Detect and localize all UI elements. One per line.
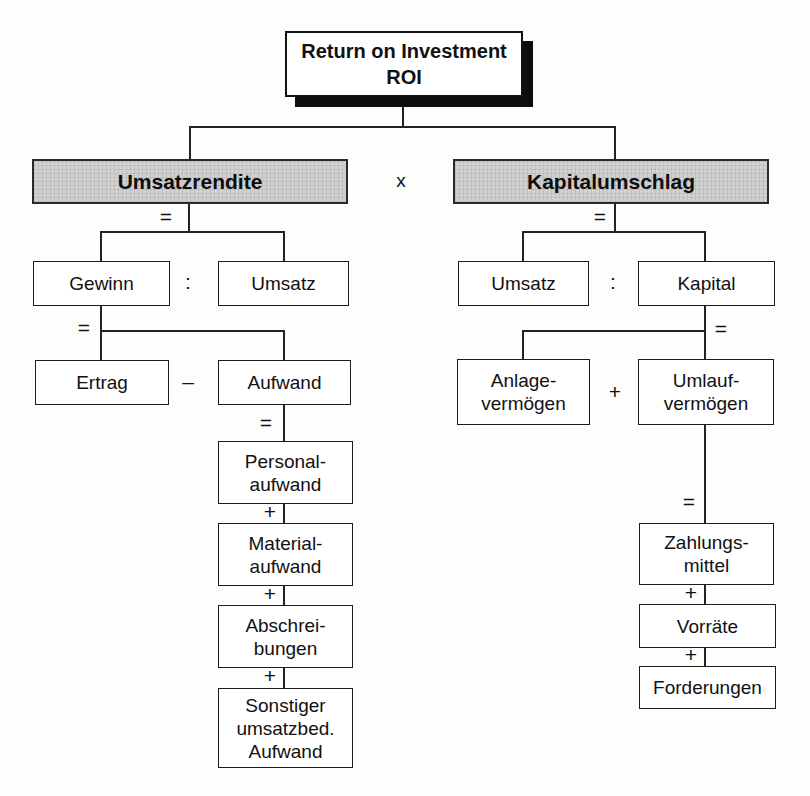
equals-right-row1: =	[708, 318, 734, 340]
connector-chain-left-1	[283, 504, 285, 524]
colon-operator-right: :	[600, 271, 626, 293]
node-ertrag: Ertrag	[35, 360, 169, 405]
equals-right-row2: =	[676, 491, 702, 513]
node-vorraete: Vorräte	[639, 604, 776, 648]
node-forderungen: Forderungen	[639, 666, 776, 709]
connector-root-to-right-header	[614, 126, 616, 159]
connector-left-row2-crossbar	[101, 330, 285, 332]
plus-operator-right-2: +	[678, 644, 704, 666]
minus-operator: –	[175, 371, 201, 393]
connector-chain-left-3	[283, 668, 285, 689]
connector-root-to-left-header	[189, 126, 191, 159]
connector-left-row1-crossbar	[100, 231, 285, 233]
node-personalaufwand: Personal- aufwand	[218, 441, 353, 504]
equals-left-row2: =	[253, 412, 279, 434]
branch-header-umsatzrendite: Umsatzrendite	[32, 159, 348, 204]
connector-left-header-down	[188, 204, 190, 233]
plus-operator-left-3: +	[257, 665, 283, 687]
connector-chain-right-1	[704, 585, 706, 604]
node-umlaufvermoegen: Umlauf- vermögen	[638, 359, 774, 425]
node-abschreibungen: Abschrei- bungen	[218, 605, 353, 668]
node-umsatz-left: Umsatz	[218, 261, 349, 306]
connector-umlauf-down	[704, 425, 706, 523]
node-aufwand: Aufwand	[218, 360, 351, 405]
root-box-roi: Return on Investment ROI	[285, 31, 523, 97]
node-anlagevermoegen: Anlage- vermögen	[457, 359, 590, 425]
node-materialaufwand: Material- aufwand	[218, 523, 353, 586]
connector-kapital-down	[704, 306, 706, 359]
connector-left-row2-to-aufwand	[283, 330, 285, 360]
equals-right-header: =	[587, 206, 613, 228]
equals-left-header: =	[153, 206, 179, 228]
roi-tree-diagram: Return on Investment ROI Umsatzrendite x…	[0, 0, 810, 796]
multiply-operator: x	[388, 170, 414, 192]
connector-right-row2-to-anlage	[522, 330, 524, 359]
plus-operator-right-1: +	[678, 582, 704, 604]
connector-right-header-down	[614, 204, 616, 233]
connector-right-row1-to-umsatz	[522, 231, 524, 261]
connector-gewinn-down	[100, 306, 102, 360]
node-sonstiger-aufwand: Sonstiger umsatzbed. Aufwand	[218, 688, 353, 768]
connector-aufwand-down	[283, 405, 285, 442]
node-umsatz-right: Umsatz	[458, 261, 589, 306]
connector-right-row2-crossbar	[522, 330, 706, 332]
branch-header-kapitalumschlag: Kapitalumschlag	[453, 159, 769, 204]
connector-left-row1-to-umsatz	[283, 231, 285, 261]
connector-chain-right-2	[704, 648, 706, 666]
plus-operator-left-1: +	[257, 501, 283, 523]
plus-operator-right-row2: +	[602, 381, 628, 403]
colon-operator-left: :	[175, 271, 201, 293]
node-kapital: Kapital	[638, 261, 775, 306]
plus-operator-left-2: +	[257, 583, 283, 605]
node-gewinn: Gewinn	[33, 261, 170, 306]
connector-chain-left-2	[283, 586, 285, 606]
connector-root-down	[402, 105, 404, 127]
connector-root-crossbar	[189, 126, 616, 128]
connector-right-row1-to-kapital	[704, 231, 706, 261]
equals-left-row1: =	[71, 317, 97, 339]
connector-left-row1-to-gewinn	[100, 231, 102, 261]
connector-right-row1-crossbar	[522, 231, 706, 233]
node-zahlungsmittel: Zahlungs- mittel	[639, 523, 774, 585]
